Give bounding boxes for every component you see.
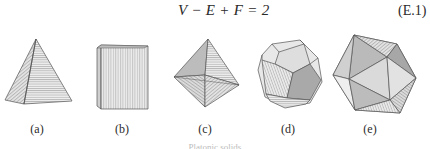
dodecahedron-shape [258,40,322,108]
figure-label-a: (a) [30,122,43,137]
figure-label-c: (c) [198,122,211,137]
pyramid-shape [5,39,72,104]
figure-label-d: (d) [281,122,295,137]
octahedron-shape [174,39,239,107]
figure-caption: Platonic solids [189,142,242,149]
figure-label-e: (e) [363,122,376,137]
icosahedron-shape [333,35,416,113]
cube-shape [97,45,148,109]
figure-label-b: (b) [115,122,129,137]
